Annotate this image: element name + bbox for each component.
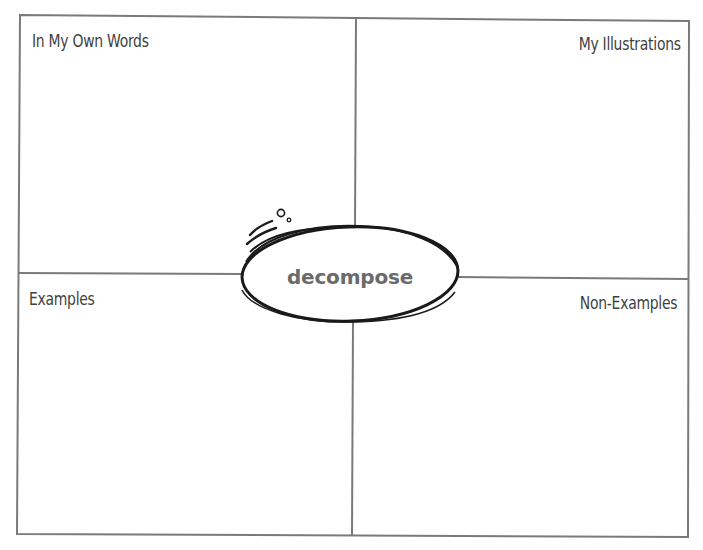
quadrant-label-in-my-own-words: In My Own Words [32,30,149,51]
vocabulary-term: decompose [250,265,450,289]
vertical-divider-top [355,17,356,228]
quadrant-label-my-illustrations: My Illustrations [579,33,681,54]
horizontal-divider-right [457,277,689,279]
quadrant-label-non-examples: Non-Examples [580,292,677,313]
quadrant-label-examples: Examples [29,288,95,309]
vertical-divider-bottom [352,322,353,536]
horizontal-divider-left [18,273,242,274]
